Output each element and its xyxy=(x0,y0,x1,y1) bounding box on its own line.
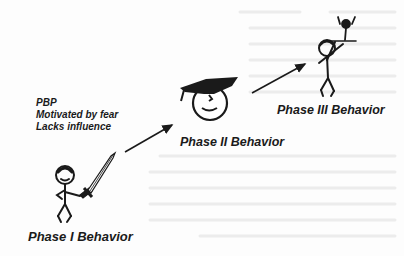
phase-3-figure xyxy=(319,40,356,96)
phase-3-label: Phase III Behavior xyxy=(277,103,385,117)
arrow-phase1-to-phase2 xyxy=(125,125,172,152)
phase-1-label: Phase I Behavior xyxy=(28,229,133,244)
phase-1-notes: PBP Motivated by fear Lacks influence xyxy=(36,97,118,133)
sword-icon xyxy=(80,153,115,198)
note-line: PBP xyxy=(36,97,118,109)
note-line: Motivated by fear xyxy=(36,109,118,121)
phase-1-figure xyxy=(56,166,80,222)
arrow-phase2-to-phase3 xyxy=(252,64,305,93)
note-line: Lacks influence xyxy=(36,121,118,133)
phase-2-label: Phase II Behavior xyxy=(180,135,284,149)
phase-2-figure xyxy=(180,77,238,120)
diagram-canvas: PBP Motivated by fear Lacks influence Ph… xyxy=(0,0,404,256)
graduation-cap-icon xyxy=(180,77,238,94)
lifted-small-figure xyxy=(338,17,355,40)
